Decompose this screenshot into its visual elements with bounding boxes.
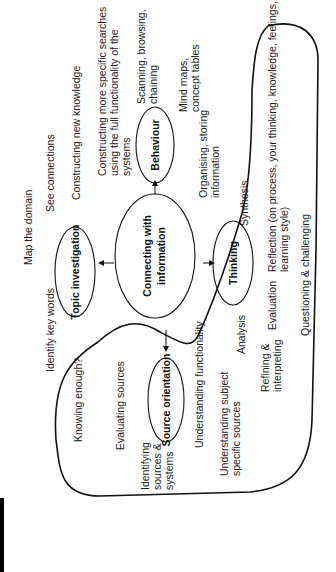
label-identifying-1: Identifying [139,442,151,490]
label-identifying-3: systems [163,451,175,490]
label-refining-1: Refining & [259,344,271,392]
label-synthesis: Synthesis [238,180,250,226]
label-map-domain: Map the domain [22,190,34,265]
label-questioning: Questioning & challenging [299,214,311,336]
label-constructing-specific-3: systems [120,137,132,176]
label-constructing-specific-2: using the full functionality of the [108,29,120,176]
thinking-node-label: Thinking [227,241,239,285]
topic-node-label: Topic investigation [69,225,81,320]
arrow-to-behaviour [152,180,158,194]
center-node-label-1: Connecting with [141,215,153,297]
label-constructing-specific-1: Constructing more specific searches [96,7,108,176]
label-organising-2: information [209,146,221,198]
label-see-connections: See connections [44,134,56,212]
label-mind-maps-2: concept tables [189,44,201,112]
black-bar [0,498,4,572]
label-identify-key: Identify key words [44,288,56,372]
source-node-label: Source orientation [160,354,172,447]
center-node-label-2: information [155,227,167,285]
label-reflection-2: learning style) [278,207,290,272]
label-refining-2: interpreting [271,339,283,392]
label-understanding-subject-2: specific sources [230,401,242,476]
label-reflection-1: Reflection (on process, your thinking, k… [266,1,278,272]
label-knowing-enough: Knowing enough? [72,358,84,442]
label-understanding-subject-1: Understanding subject [218,371,230,476]
label-scanning-2: chaining [147,65,159,104]
behaviour-node-label: Behaviour [149,119,161,170]
label-identifying-2: sources & [151,443,163,490]
information-literacy-diagram: Connecting with information Topic invest… [0,0,336,572]
label-evaluation: Evaluation [266,281,278,330]
label-analysis: Analysis [235,315,247,354]
label-scanning-1: Scanning, browsing, [135,9,147,104]
label-understanding-functionality: Understanding functionality [193,321,205,448]
label-constructing-new: Constructing new knowledge [70,66,82,200]
label-mind-maps-1: Mind maps, [177,58,189,112]
label-evaluating-sources: Evaluating sources [114,361,126,450]
arrow-to-topic [98,260,114,266]
label-organising-1: Organising, storing [197,110,209,198]
